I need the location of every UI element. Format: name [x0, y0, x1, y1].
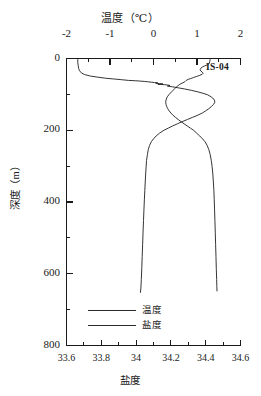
bottom-tick-label: 34.6 — [219, 352, 261, 363]
series-line-salinity — [166, 60, 217, 291]
series-line-temperature — [78, 60, 215, 293]
left-tick-label: 800 — [16, 338, 60, 350]
top-tick-label: -2 — [47, 27, 87, 39]
top-tick-label: 0 — [134, 27, 174, 39]
chart-figure: 温度（℃） 盐度 深度（m） IS-04 温度 盐度 -2-101233.633… — [0, 0, 260, 396]
left-tick-label: 200 — [16, 122, 60, 134]
top-tick-label: -1 — [90, 27, 130, 39]
left-tick-label: 0 — [16, 51, 60, 63]
left-tick-label: 400 — [16, 194, 60, 206]
left-tick-label: 600 — [16, 266, 60, 278]
top-tick-label: 1 — [177, 27, 217, 39]
top-tick-label: 2 — [221, 27, 261, 39]
data-series-group — [78, 60, 217, 293]
